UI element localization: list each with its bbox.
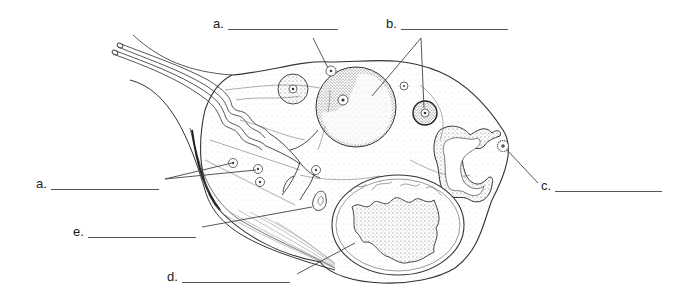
answer-blank-a-left[interactable] [51, 179, 159, 190]
label-c: c. [541, 179, 662, 192]
label-a-left: a. [36, 177, 159, 190]
ovary-diagram [0, 0, 694, 301]
label-letter: c. [541, 179, 551, 192]
secondary-follicle-2 [413, 101, 437, 125]
secondary-follicle [278, 74, 308, 104]
label-letter: e. [73, 225, 84, 238]
graafian-follicle [316, 67, 396, 147]
label-d: d. [167, 270, 290, 283]
label-letter: a. [213, 17, 224, 30]
label-letter: a. [36, 177, 47, 190]
answer-blank-e[interactable] [88, 227, 196, 238]
answer-blank-d[interactable] [182, 272, 290, 283]
released-ovum [498, 141, 509, 152]
leader-c [507, 150, 538, 183]
label-a-top: a. [213, 17, 338, 30]
answer-blank-a-top[interactable] [228, 19, 338, 30]
label-letter: b. [386, 17, 397, 30]
label-e: e. [73, 225, 196, 238]
label-letter: d. [167, 270, 178, 283]
answer-blank-c[interactable] [555, 181, 662, 192]
corpus-luteum [332, 175, 464, 275]
answer-blank-b[interactable] [401, 19, 508, 30]
label-b: b. [386, 17, 508, 30]
